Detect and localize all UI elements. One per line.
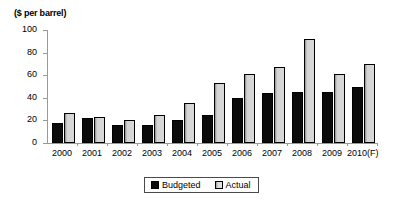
bar-actual-2000 bbox=[64, 113, 75, 144]
bar-group bbox=[170, 30, 200, 143]
x-tick bbox=[77, 143, 78, 146]
bar-budgeted-2000 bbox=[52, 123, 63, 143]
y-tick-label: 0 bbox=[32, 137, 37, 147]
x-tick-label-2007: 2007 bbox=[257, 148, 287, 158]
y-axis-title: ($ per barrel) bbox=[14, 8, 66, 18]
bar-budgeted-2007 bbox=[262, 93, 273, 143]
bar-actual-2008 bbox=[304, 39, 315, 143]
gray-square-icon bbox=[215, 181, 223, 189]
bar-budgeted-2002 bbox=[112, 125, 123, 143]
bar-actual-2009 bbox=[334, 74, 345, 143]
bar-actual-2003 bbox=[154, 115, 165, 143]
x-tick-label-2000: 2000 bbox=[47, 148, 77, 158]
x-tick-label-2003: 2003 bbox=[137, 148, 167, 158]
y-tick: 40 bbox=[43, 98, 47, 99]
bar-actual-2006 bbox=[244, 74, 255, 143]
y-tick: 100 bbox=[43, 30, 47, 31]
x-tick-label-2006: 2006 bbox=[227, 148, 257, 158]
legend-item-budgeted[interactable]: Budgeted bbox=[151, 180, 201, 190]
x-tick bbox=[347, 143, 348, 146]
bar-actual-2005 bbox=[214, 83, 225, 143]
x-tick bbox=[197, 143, 198, 146]
x-tick bbox=[317, 143, 318, 146]
bar-group bbox=[140, 30, 170, 143]
x-tick bbox=[287, 143, 288, 146]
bar-actual-2007 bbox=[274, 67, 285, 143]
bar-group bbox=[320, 30, 350, 143]
y-tick: 0 bbox=[43, 143, 47, 144]
y-tick-label: 40 bbox=[27, 92, 37, 102]
x-tick-label-2001: 2001 bbox=[77, 148, 107, 158]
x-tick-label-2010(F): 2010(F) bbox=[347, 148, 377, 158]
x-tick bbox=[137, 143, 138, 146]
bar-group bbox=[50, 30, 80, 143]
plot-area: 020406080100 200020012002200320042005200… bbox=[47, 30, 377, 143]
y-tick: 80 bbox=[43, 53, 47, 54]
y-axis-line bbox=[47, 30, 48, 143]
y-tick-label: 60 bbox=[27, 69, 37, 79]
bar-actual-2010(F) bbox=[364, 64, 375, 143]
bar-group bbox=[290, 30, 320, 143]
bar-budgeted-2004 bbox=[172, 120, 183, 143]
y-tick-label: 100 bbox=[22, 24, 37, 34]
black-square-icon bbox=[151, 181, 159, 189]
bar-actual-2001 bbox=[94, 117, 105, 143]
chart-legend: BudgetedActual bbox=[144, 177, 259, 193]
bar-group bbox=[260, 30, 290, 143]
bar-actual-2002 bbox=[124, 120, 135, 143]
bar-budgeted-2001 bbox=[82, 118, 93, 143]
legend-label: Actual bbox=[226, 180, 251, 190]
y-tick: 20 bbox=[43, 120, 47, 121]
x-tick-label-2005: 2005 bbox=[197, 148, 227, 158]
y-tick-label: 80 bbox=[27, 47, 37, 57]
bar-budgeted-2006 bbox=[232, 98, 243, 143]
bar-budgeted-2009 bbox=[322, 92, 333, 143]
x-tick bbox=[257, 143, 258, 146]
x-axis-line bbox=[47, 143, 377, 144]
x-tick-label-2008: 2008 bbox=[287, 148, 317, 158]
bar-group bbox=[350, 30, 380, 143]
x-tick-label-2009: 2009 bbox=[317, 148, 347, 158]
x-tick bbox=[107, 143, 108, 146]
x-tick bbox=[167, 143, 168, 146]
bar-chart: ($ per barrel) 020406080100 200020012002… bbox=[0, 0, 400, 205]
bar-budgeted-2008 bbox=[292, 92, 303, 143]
legend-item-actual[interactable]: Actual bbox=[215, 180, 251, 190]
bar-budgeted-2010(F) bbox=[352, 87, 363, 144]
bar-group bbox=[110, 30, 140, 143]
y-tick: 60 bbox=[43, 75, 47, 76]
bar-actual-2004 bbox=[184, 103, 195, 143]
x-tick bbox=[227, 143, 228, 146]
x-tick-label-2004: 2004 bbox=[167, 148, 197, 158]
x-tick bbox=[377, 143, 378, 146]
legend-label: Budgeted bbox=[162, 180, 201, 190]
bar-group bbox=[230, 30, 260, 143]
bar-group bbox=[80, 30, 110, 143]
bar-budgeted-2005 bbox=[202, 115, 213, 143]
x-tick-label-2002: 2002 bbox=[107, 148, 137, 158]
bar-budgeted-2003 bbox=[142, 125, 153, 143]
bar-group bbox=[200, 30, 230, 143]
y-tick-label: 20 bbox=[27, 114, 37, 124]
